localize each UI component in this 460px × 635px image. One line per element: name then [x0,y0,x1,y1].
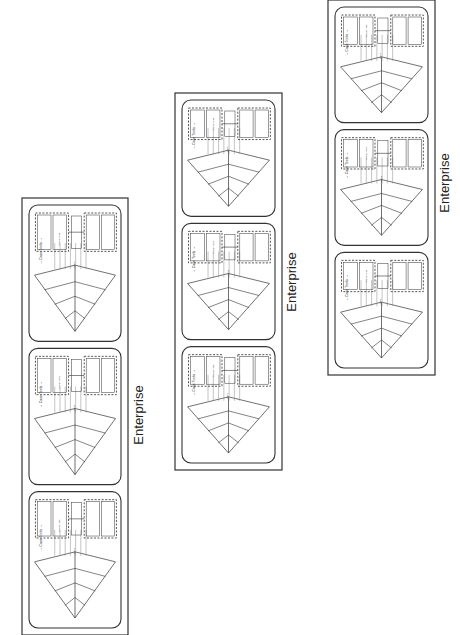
capabilities-label: Capabilities [365,146,368,159]
card: → Case Tools →CapabilitiesGaps [29,492,121,628]
card: → Case Tools →CapabilitiesGaps [182,100,275,216]
capabilities-label: Capabilities [58,232,61,245]
gaps-label: Gaps [227,269,230,276]
gaps-label: Gaps [73,261,76,268]
case-tools-label: → Case Tools → [192,123,196,150]
case-tools-label: → Case Tools → [345,152,349,179]
case-tools-label: → Case Tools → [345,29,349,56]
enterprise-label-right: Enterprise [437,153,452,212]
card: → Case Tools →CapabilitiesGaps [335,130,428,246]
case-tools-label: → Case Tools → [192,369,196,396]
gaps-label: Gaps [380,175,383,182]
gaps-label: Gaps [227,392,230,399]
card: → Case Tools →CapabilitiesGaps [29,205,121,341]
card: → Case Tools →CapabilitiesGaps [182,347,275,463]
capabilities-label: Capabilities [212,117,215,130]
capabilities-label: Capabilities [365,24,368,37]
card: → Case Tools →CapabilitiesGaps [29,348,121,484]
gaps-label: Gaps [227,146,230,153]
gaps-label: Gaps [73,404,76,411]
enterprise-label-left: Enterprise [131,385,146,444]
case-tools-label: → Case Tools → [345,275,349,302]
card: → Case Tools →CapabilitiesGaps [335,252,428,368]
diagram-svg: → Case Tools →CapabilitiesGaps→ Case Too… [0,0,460,635]
card: → Case Tools →CapabilitiesGaps [335,7,428,123]
capabilities-label: Capabilities [212,240,215,253]
capabilities-label: Capabilities [212,364,215,377]
gaps-label: Gaps [380,52,383,59]
enterprise-label-middle: Enterprise [284,252,299,311]
capabilities-label: Capabilities [58,519,61,532]
capabilities-label: Capabilities [58,375,61,388]
gaps-label: Gaps [73,547,76,554]
card: → Case Tools →CapabilitiesGaps [182,223,275,339]
case-tools-label: → Case Tools → [192,246,196,273]
gaps-label: Gaps [380,298,383,305]
capabilities-label: Capabilities [365,269,368,282]
